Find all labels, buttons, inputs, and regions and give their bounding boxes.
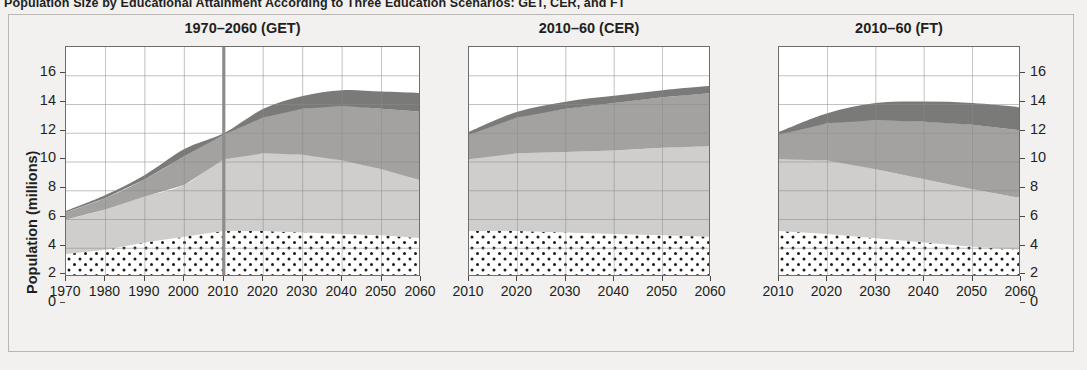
y-tick-label-left: 8 [16,179,56,194]
x-tick-mark [710,276,711,281]
x-tick-label: 2010 [442,284,494,298]
y-tick-mark-right [1020,302,1025,303]
x-tick-label: 2030 [849,284,901,298]
area-primary [469,146,710,237]
y-tick-mark-right [1020,130,1025,131]
plot-area-ft [778,46,1020,276]
x-tick-mark [565,276,566,281]
y-tick-label-left: 12 [16,122,56,137]
figure-title: Population Size by Educational Attainmen… [4,0,625,10]
y-tick-label-right: 4 [1030,237,1070,252]
y-tick-label-left: 4 [16,237,56,252]
x-tick-label: 2040 [897,284,949,298]
figure-root: Population Size by Educational Attainmen… [0,0,1087,370]
y-tick-mark-right [1020,216,1025,217]
y-tick-mark-right [1020,245,1025,246]
x-tick-mark [341,276,342,281]
x-tick-label: 2060 [684,284,736,298]
x-tick-label: 2050 [636,284,688,298]
x-tick-mark [223,276,224,281]
x-tick-label: 2040 [587,284,639,298]
y-tick-mark-right [1020,187,1025,188]
y-tick-mark-left [60,302,65,303]
panel-title-ft: 2010–60 (FT) [778,20,1020,36]
x-tick-mark [65,276,66,281]
y-tick-mark-right [1020,72,1025,73]
y-tick-label-left: 16 [16,64,56,79]
y-tick-mark-right [1020,101,1025,102]
x-tick-label: 2020 [490,284,542,298]
panel-title-get: 1970–2060 (GET) [65,20,420,36]
x-tick-label: 2030 [539,284,591,298]
x-tick-mark [420,276,421,281]
x-tick-mark [144,276,145,281]
x-tick-mark [778,276,779,281]
x-tick-mark [302,276,303,281]
x-tick-label: 2050 [946,284,998,298]
x-tick-label: 2060 [394,284,446,298]
x-tick-label: 2010 [752,284,804,298]
area-no-education [469,231,710,276]
x-tick-mark [516,276,517,281]
x-tick-mark [468,276,469,281]
y-tick-label-left: 6 [16,208,56,223]
x-tick-label: 2060 [994,284,1046,298]
plot-area-get [65,46,420,276]
x-tick-mark [826,276,827,281]
y-tick-label-left: 2 [16,265,56,280]
x-tick-mark [104,276,105,281]
y-tick-label-left: 14 [16,93,56,108]
x-tick-mark [262,276,263,281]
x-tick-mark [183,276,184,281]
x-tick-mark [972,276,973,281]
plot-area-cer [468,46,710,276]
x-tick-mark [875,276,876,281]
y-tick-label-right: 8 [1030,179,1070,194]
panel-title-cer: 2010–60 (CER) [468,20,710,36]
x-tick-mark [613,276,614,281]
y-tick-mark-right [1020,158,1025,159]
x-tick-mark [923,276,924,281]
y-tick-label-right: 10 [1030,150,1070,165]
y-tick-label-left: 10 [16,150,56,165]
y-tick-label-right: 6 [1030,208,1070,223]
x-tick-mark [381,276,382,281]
x-tick-mark [662,276,663,281]
x-tick-label: 2020 [800,284,852,298]
y-tick-mark-right [1020,273,1025,274]
y-tick-label-right: 14 [1030,93,1070,108]
y-tick-label-right: 16 [1030,64,1070,79]
y-tick-label-right: 12 [1030,122,1070,137]
y-tick-label-right: 2 [1030,265,1070,280]
x-tick-mark [1020,276,1021,281]
